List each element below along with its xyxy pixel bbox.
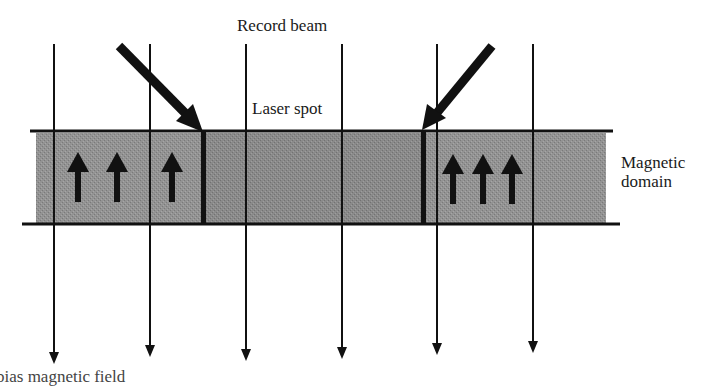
magnetization-arrows-right: [442, 154, 523, 204]
laser-spot-label: Laser spot: [251, 99, 323, 118]
magnetic-domain-label-line2: domain: [621, 172, 711, 191]
record-beam-label: Record beam: [237, 16, 327, 35]
bias-field-label: bias magnetic field: [0, 367, 125, 386]
domain-wall-left: [201, 131, 206, 224]
record-beam-arrow-left-icon: [119, 46, 203, 132]
magnetic-domain-label: Magnetic domain: [621, 153, 711, 191]
record-beam-arrow-right-icon: [422, 46, 492, 130]
magnetic-domain-label-line1: Magnetic: [621, 153, 711, 172]
medium-heated-region: [205, 133, 423, 223]
recording-layer: [22, 131, 620, 224]
domain-wall-right: [421, 131, 426, 224]
